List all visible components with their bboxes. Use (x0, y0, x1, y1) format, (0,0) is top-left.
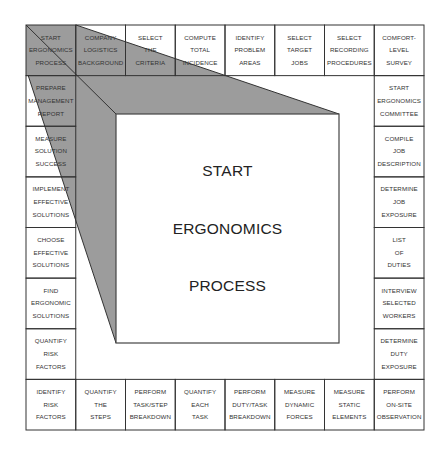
step-label-line: START (41, 35, 61, 41)
step-label-line: FACTORS (36, 364, 66, 370)
process-step-left-column: MEASURESOLUTIONSUCCESS (26, 126, 76, 177)
process-step-top-row: COMPUTETOTALINCIDENCE (175, 25, 225, 76)
step-label-line: RISK (43, 351, 58, 357)
step-label-line: COMPANY (85, 35, 117, 41)
step-label-line: ELEMENTS (332, 414, 366, 420)
step-label-line: ON-SITE (386, 402, 412, 408)
process-step-top-row: STARTERGONOMICSPROCESS (26, 25, 76, 76)
process-step-top-row: COMFORT-LEVELSURVEY (374, 25, 424, 76)
step-label-line: SELECTED (382, 300, 415, 306)
process-step-top-row: SELECTRECORDINGPROCEDURES (325, 25, 375, 76)
step-label-line: EACH (191, 402, 209, 408)
step-label-line: THE (144, 47, 157, 53)
step-label-line: BREAKDOWN (130, 414, 171, 420)
process-step-top-row: IDENTIFYPROBLEMAREAS (225, 25, 275, 76)
step-label-line: QUANTIFY (85, 389, 117, 395)
process-step-right-column: STARTERGONOMICSCOMMITTEE (374, 76, 424, 127)
step-label-line: COMFORT- (382, 35, 416, 41)
step-label-line: PROBLEM (234, 47, 265, 53)
step-label-line: SOLUTIONS (33, 262, 70, 268)
step-label-line: EXPOSURE (382, 212, 417, 218)
step-label-line: RISK (43, 402, 58, 408)
step-label-line: DUTY/TASK (232, 402, 267, 408)
step-label-line: SELECT (138, 35, 163, 41)
step-label-line: TOTAL (190, 47, 210, 53)
process-step-right-column: LISTOFDUTIES (374, 228, 424, 279)
step-label-line: ERGONOMIC (31, 300, 71, 306)
step-label-line: IDENTIFY (36, 389, 65, 395)
center-title: START ERGONOMICS PROCESS (116, 114, 339, 343)
step-label-line: SELECT (337, 35, 362, 41)
step-label-line: QUANTIFY (184, 389, 216, 395)
process-step-right-column: INTERVIEWSELECTEDWORKERS (374, 278, 424, 329)
step-label-line: JOBS (291, 60, 308, 66)
step-label-line: EXPOSURE (382, 364, 417, 370)
step-label-line: LOGISTICS (84, 47, 118, 53)
process-step-left-column: IMPLEMENTEFFECTIVESOLUTIONS (26, 177, 76, 228)
process-step-right-column: DETERMINEDUTYEXPOSURE (374, 329, 424, 380)
step-label-line: SURVEY (386, 60, 412, 66)
process-step-left-column: CHOOSEEFFECTIVESOLUTIONS (26, 228, 76, 279)
process-step-bottom-row: PERFORMON-SITEOBSERVATION (374, 379, 424, 430)
step-label-line: SOLUTION (35, 148, 67, 154)
step-label-line: SOLUTIONS (33, 212, 70, 218)
step-label-line: BACKGROUND (78, 60, 123, 66)
step-label-line: DUTY (391, 351, 408, 357)
process-step-bottom-row: PERFORMTASK/STEPBREAKDOWN (126, 379, 176, 430)
process-step-right-column: COMPILEJOBDESCRIPTION (374, 126, 424, 177)
ergonomics-process-diagram: STARTERGONOMICSPROCESSCOMPANYLOGISTICSBA… (0, 0, 447, 454)
process-step-top-row: SELECTTHECRITERIA (126, 25, 176, 76)
process-step-top-row: SELECTTARGETJOBS (275, 25, 325, 76)
step-label-line: TARGET (287, 47, 312, 53)
step-label-line: MEASURE (284, 389, 315, 395)
step-label-line: COMMITTEE (380, 111, 418, 117)
step-label-line: SELECT (287, 35, 312, 41)
step-label-line: INTERVIEW (382, 288, 417, 294)
step-label-line: QUANTIFY (35, 338, 67, 344)
step-label-line: THE (94, 402, 107, 408)
step-label-line: BREAKDOWN (229, 414, 270, 420)
step-label-line: IMPLEMENT (32, 186, 69, 192)
step-label-line: FIND (43, 288, 58, 294)
step-label-line: LEVEL (389, 47, 409, 53)
step-label-line: CRITERIA (136, 60, 166, 66)
step-label-line: EFFECTIVE (33, 250, 68, 256)
step-label-line: OBSERVATION (377, 414, 422, 420)
step-label-line: RECORDING (330, 47, 369, 53)
step-label-line: PERFORM (383, 389, 415, 395)
step-label-line: PERFORM (234, 389, 266, 395)
step-label-line: SOLUTIONS (33, 313, 70, 319)
step-label-line: OF (395, 250, 404, 256)
process-step-bottom-row: PERFORMDUTY/TASKBREAKDOWN (225, 379, 275, 430)
step-label-line: WORKERS (383, 313, 416, 319)
center-title-line: PROCESS (189, 277, 266, 295)
step-label-line: DESCRIPTION (377, 161, 420, 167)
step-label-line: PROCEDURES (327, 60, 372, 66)
step-label-line: DETERMINE (380, 186, 417, 192)
step-label-line: FORCES (286, 414, 312, 420)
step-label-line: COMPILE (385, 136, 414, 142)
step-label-line: PROCESS (35, 60, 66, 66)
step-label-line: START (389, 85, 409, 91)
step-label-line: CHOOSE (37, 237, 64, 243)
process-step-left-column: FINDERGONOMICSOLUTIONS (26, 278, 76, 329)
step-label-line: MEASURE (334, 389, 365, 395)
process-step-bottom-row: QUANTIFYTHESTEPS (76, 379, 126, 430)
step-label-line: PERFORM (135, 389, 167, 395)
step-label-line: TASK (192, 414, 208, 420)
step-label-line: STATIC (339, 402, 361, 408)
step-label-line: SUCCESS (36, 161, 67, 167)
step-label-line: COMPUTE (184, 35, 216, 41)
step-label-line: STEPS (90, 414, 111, 420)
center-title-line: START (202, 162, 252, 180)
step-label-line: ERGONOMICS (29, 47, 73, 53)
step-label-line: JOB (393, 148, 405, 154)
step-label-line: DETERMINE (380, 338, 417, 344)
step-label-line: EFFECTIVE (33, 199, 68, 205)
process-step-bottom-row: QUANTIFYEACHTASK (175, 379, 225, 430)
step-label-line: JOB (393, 199, 405, 205)
step-label-line: FACTORS (36, 414, 66, 420)
step-label-line: DUTIES (387, 262, 410, 268)
step-label-line: PREPARE (36, 85, 66, 91)
step-label-line: LIST (392, 237, 405, 243)
